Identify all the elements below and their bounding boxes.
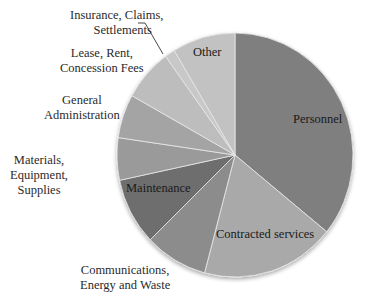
label-lease: Lease, Rent, Concession Fees bbox=[60, 46, 144, 76]
label-communications-line1: Communications, bbox=[80, 263, 170, 278]
label-other: Other bbox=[193, 45, 221, 60]
label-lease-line1: Lease, Rent, bbox=[60, 46, 144, 61]
label-insurance-line2: Settlements bbox=[82, 23, 163, 38]
label-materials-line3: Supplies bbox=[10, 183, 68, 198]
label-general-line1: General bbox=[44, 93, 120, 108]
label-communications: Communications, Energy and Waste bbox=[80, 263, 170, 293]
label-personnel: Personnel bbox=[293, 112, 342, 127]
label-lease-line2: Concession Fees bbox=[60, 61, 144, 76]
label-maintenance: Maintenance bbox=[126, 181, 191, 196]
label-materials-line2: Equipment, bbox=[10, 168, 68, 183]
label-general: General Administration bbox=[44, 93, 120, 123]
label-materials: Materials, Equipment, Supplies bbox=[10, 153, 68, 198]
pie-chart bbox=[0, 0, 366, 302]
label-insurance: Insurance, Claims, Settlements bbox=[70, 8, 163, 38]
label-insurance-line1: Insurance, Claims, bbox=[70, 8, 163, 23]
label-materials-line1: Materials, bbox=[10, 153, 68, 168]
label-contracted: Contracted services bbox=[216, 227, 314, 242]
label-communications-line2: Energy and Waste bbox=[80, 278, 170, 293]
label-general-line2: Administration bbox=[44, 108, 120, 123]
